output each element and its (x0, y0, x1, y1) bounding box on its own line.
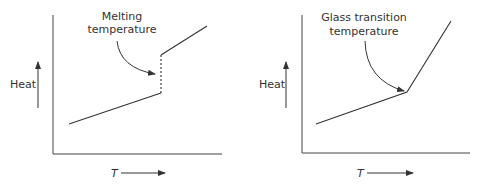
annotation-line2: temperature (87, 23, 156, 36)
x-axis-label: T (111, 167, 119, 180)
melting-panel: Melting temperature Heat T (10, 10, 222, 180)
annotation-line1: Glass transition (321, 11, 407, 24)
curved-arrow-icon (117, 41, 155, 74)
x-axis-label: T (357, 167, 365, 180)
glass-transition-panel: Glass transition temperature Heat T (259, 11, 470, 180)
y-axis-label: Heat (10, 78, 37, 91)
diagram-canvas: Melting temperature Heat T Glass transit… (0, 0, 478, 190)
liquid-phase-line (161, 26, 207, 55)
annotation-line1: Melting (102, 10, 143, 23)
annotation-line2: temperature (329, 25, 398, 38)
y-axis-label: Heat (259, 78, 286, 91)
curved-arrow-icon (365, 41, 404, 91)
solid-phase-line (69, 93, 161, 124)
